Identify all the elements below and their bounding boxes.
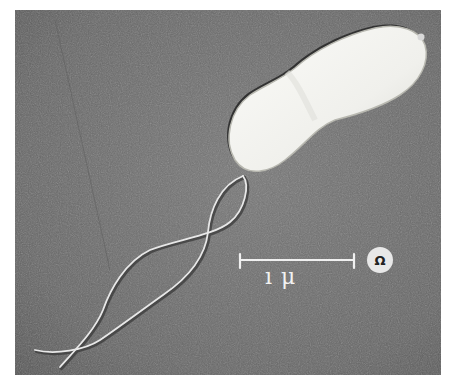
micrograph-canvas <box>15 10 441 375</box>
micrograph-image: ı μ Ω <box>15 10 441 375</box>
scale-bar-label: ı μ <box>265 264 296 289</box>
badge: Ω <box>367 247 393 273</box>
debris-spot <box>418 34 425 41</box>
omega-icon: Ω <box>374 254 385 267</box>
